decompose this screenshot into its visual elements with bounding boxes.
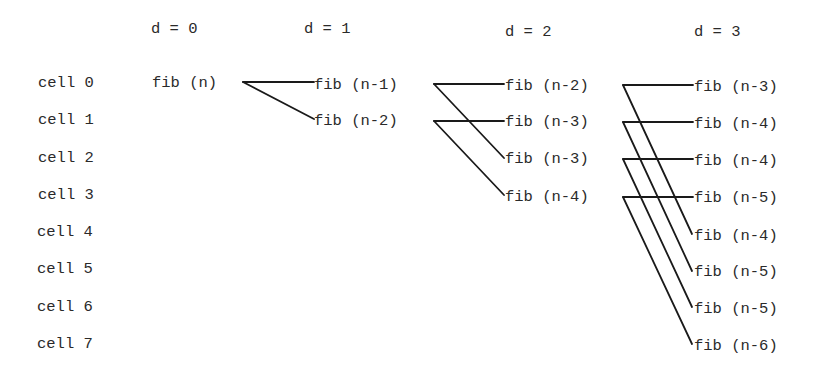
depth-header-2: d = 2 bbox=[505, 25, 552, 41]
call-edge bbox=[243, 82, 314, 119]
fib-node: fib (n-2) bbox=[505, 79, 589, 95]
fib-node: fib (n-5) bbox=[694, 191, 778, 207]
fib-node: fib (n-2) bbox=[314, 114, 398, 130]
cell-label: cell 1 bbox=[38, 113, 94, 129]
depth-header-0: d = 0 bbox=[151, 22, 198, 38]
call-edge bbox=[623, 197, 692, 344]
fib-node: fib (n-5) bbox=[694, 302, 778, 318]
cell-label: cell 5 bbox=[37, 262, 93, 278]
call-edge bbox=[434, 121, 504, 195]
fib-node: fib (n-4) bbox=[505, 190, 589, 206]
cell-label: cell 4 bbox=[37, 225, 93, 241]
fib-node: fib (n-3) bbox=[505, 115, 589, 131]
fib-node: fib (n-3) bbox=[694, 80, 778, 96]
fib-node: fib (n) bbox=[152, 76, 217, 92]
cell-label: cell 2 bbox=[38, 151, 94, 167]
fib-node: fib (n-4) bbox=[694, 229, 778, 245]
fibonacci-recursion-diagram: d = 0 d = 1 d = 2 d = 3 cell 0 cell 1 ce… bbox=[0, 0, 832, 383]
fib-node: fib (n-4) bbox=[694, 154, 778, 170]
call-edge bbox=[623, 159, 692, 307]
fib-node: fib (n-3) bbox=[505, 152, 589, 168]
fib-node: fib (n-4) bbox=[694, 117, 778, 133]
cell-label: cell 3 bbox=[38, 188, 94, 204]
cell-label: cell 6 bbox=[37, 300, 93, 316]
fib-node: fib (n-5) bbox=[694, 265, 778, 281]
cell-label: cell 7 bbox=[37, 337, 93, 353]
fib-node: fib (n-1) bbox=[314, 78, 398, 94]
depth-header-3: d = 3 bbox=[694, 25, 741, 41]
fib-node: fib (n-6) bbox=[694, 339, 778, 355]
cell-label: cell 0 bbox=[38, 76, 94, 92]
depth-header-1: d = 1 bbox=[304, 22, 351, 38]
